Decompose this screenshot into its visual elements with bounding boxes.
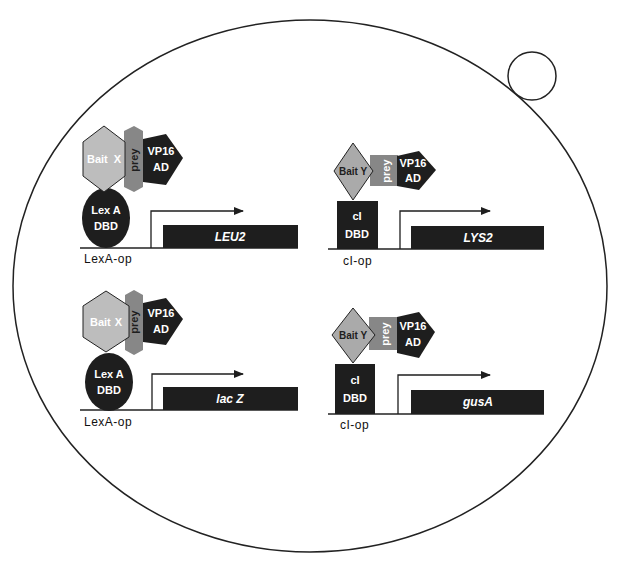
activation-label-line2: AD [405,336,421,348]
prey-label: prey [128,310,140,334]
dbd-label-line1: Lex A [94,368,124,380]
activation-label-line2: AD [405,172,421,184]
bait-label: BaitX [90,316,123,328]
reporter-gene-label: lac Z [216,392,244,406]
activation-label-line1: VP16 [148,307,175,319]
yeast-bud-circle [508,52,556,100]
activation-label-line1: VP16 [148,145,175,157]
vp16-ad-pentagon [143,298,183,345]
activation-label-line1: VP16 [400,320,427,332]
construct-top-left: LEU2 Lex A DBD prey BaitX VP16 AD LexA-o… [80,126,298,266]
prey-label: prey [380,159,392,183]
reporter-gene-label: LEU2 [215,230,246,244]
bait-label: Bait Y [339,330,367,341]
activation-label-line2: AD [153,323,169,335]
construct-bottom-right: gusA cI DBD prey Bait Y VP16 AD cI-op [328,308,544,432]
activation-label-line1: VP16 [400,157,427,169]
ci-dbd-box [337,201,378,249]
yeast-cell-outline [13,20,607,552]
vp16-ad-pentagon [397,312,435,358]
prey-label: prey [379,322,391,346]
operator-label: LexA-op [84,415,132,429]
bait-label: BaitX [87,153,122,165]
bait-label: Bait Y [339,166,367,177]
two-hybrid-diagram: LEU2 Lex A DBD prey BaitX VP16 AD LexA-o… [0,0,617,561]
dbd-label-line2: DBD [94,220,118,232]
construct-bottom-left: lac Z Lex A DBD prey BaitX VP16 AD LexA-… [80,290,298,429]
dbd-label-line2: DBD [343,392,367,404]
activation-label-line2: AD [153,161,169,173]
ci-dbd-box [335,364,375,414]
lexa-dbd-circle [82,188,130,248]
dbd-label-line1: cI [350,374,359,386]
dbd-label-line2: DBD [345,228,369,240]
reporter-gene-label: LYS2 [463,231,492,245]
operator-label: cI-op [340,418,369,432]
vp16-ad-pentagon [143,134,183,185]
dbd-label-line1: Lex A [91,204,121,216]
lexa-dbd-circle [85,353,133,411]
operator-label: LexA-op [84,252,132,266]
construct-top-right: LYS2 cI DBD prey Bait Y VP16 AD cI-op [328,143,544,268]
prey-label: prey [128,148,140,172]
reporter-gene-label: gusA [462,395,493,409]
operator-label: cI-op [343,254,372,268]
dbd-label-line1: cI [352,210,361,222]
dbd-label-line2: DBD [97,384,121,396]
